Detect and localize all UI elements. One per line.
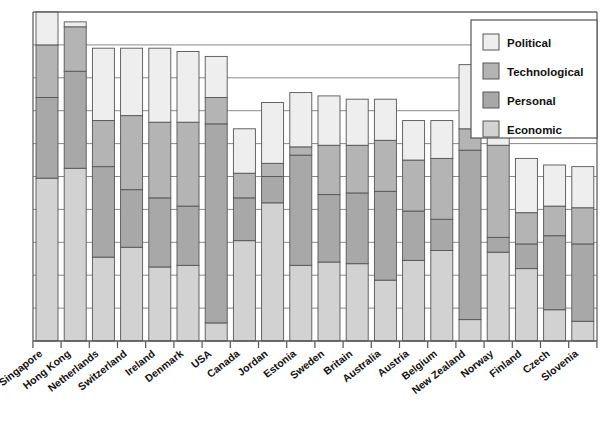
chart-canvas: SingaporeHong KongNetherlandsSwitzerland… [0,0,610,427]
bar-canada [233,129,255,341]
bar-segment-political [233,129,255,173]
legend-label-economic: Economic [507,124,563,136]
bar-segment-political [290,93,312,147]
bar-singapore [36,12,58,341]
bar-segment-personal [515,244,537,269]
legend-swatch-personal [483,92,499,108]
bar-segment-personal [205,124,227,323]
bar-segment-personal [374,191,396,280]
bar-segment-technological [177,122,199,206]
bar-segment-political [36,12,58,45]
bar-segment-personal [177,206,199,265]
chart-legend: PoliticalTechnologicalPersonalEconomic [471,20,597,138]
bar-segment-technological [403,160,425,211]
bar-segment-personal [233,198,255,241]
bar-segment-political [515,158,537,212]
bar-finland [515,158,537,341]
legend-swatch-economic [483,121,499,137]
bar-segment-economic [544,310,566,341]
bar-segment-technological [515,213,537,244]
x-axis-label-finland: Finland [487,347,524,379]
bar-segment-economic [290,265,312,341]
bar-segment-technological [318,145,340,194]
bar-segment-political [177,51,199,122]
bar-segment-technological [149,122,171,198]
bar-czech [544,165,566,341]
bar-ireland [149,48,171,341]
bar-segment-personal [290,155,312,265]
bar-segment-technological [374,140,396,191]
bar-segment-personal [36,98,58,179]
bar-britain [346,99,368,341]
bar-segment-personal [544,236,566,310]
bar-segment-political [121,48,143,115]
bar-jordan [262,102,284,341]
legend-label-technological: Technological [507,66,583,78]
bar-segment-economic [92,257,114,341]
bar-segment-economic [374,280,396,341]
bar-segment-economic [431,251,453,341]
bar-segment-technological [36,45,58,98]
bar-segment-technological [121,116,143,190]
bar-segment-personal [262,177,284,203]
bar-segment-personal [346,193,368,264]
bar-segment-political [64,22,86,27]
bar-australia [374,99,396,341]
bar-segment-economic [487,252,509,341]
bar-segment-personal [64,71,86,168]
bar-switzerland [121,48,143,341]
bar-hong-kong [64,22,86,341]
bar-segment-political [403,121,425,160]
bar-segment-political [374,99,396,140]
bar-estonia [290,93,312,341]
bar-segment-political [346,99,368,145]
bar-segment-personal [92,167,114,257]
bar-segment-economic [149,267,171,341]
bar-belgium [431,121,453,341]
bar-segment-personal [431,219,453,250]
bar-segment-economic [205,323,227,341]
bar-segment-personal [403,211,425,260]
bar-segment-economic [572,321,594,341]
bar-slovenia [572,167,594,341]
bar-segment-political [92,48,114,120]
bar-segment-technological [205,98,227,124]
bar-segment-political [149,48,171,122]
bar-sweden [318,96,340,341]
bar-segment-technological [346,145,368,193]
bar-segment-political [431,121,453,159]
stacked-bar-chart: SingaporeHong KongNetherlandsSwitzerland… [0,0,610,427]
x-axis-labels: SingaporeHong KongNetherlandsSwitzerland… [0,347,580,396]
legend-swatch-political [483,34,499,50]
bar-segment-technological [290,147,312,155]
bar-segment-technological [431,158,453,219]
bar-denmark [177,51,199,341]
bar-segment-personal [149,198,171,267]
bar-segment-economic [403,260,425,341]
bar-segment-political [572,167,594,208]
bar-segment-political [318,96,340,145]
x-axis-label-canada: Canada [204,347,241,380]
legend-label-political: Political [507,37,551,49]
bar-segment-economic [459,320,481,341]
bar-segment-political [205,56,227,97]
bar-segment-technological [92,121,114,167]
bar-segment-economic [515,269,537,341]
bar-austria [403,121,425,341]
bar-segment-economic [64,168,86,341]
bar-segment-technological [233,173,255,198]
bar-segment-economic [346,264,368,341]
bar-segment-personal [572,244,594,321]
bar-segment-economic [36,178,58,341]
bar-netherlands [92,48,114,341]
x-axis-ticks [33,341,597,348]
legend-swatch-technological [483,63,499,79]
bar-segment-technological [487,145,509,237]
bar-segment-economic [121,247,143,341]
bar-segment-economic [233,241,255,341]
bar-segment-political [262,102,284,163]
bar-segment-personal [121,190,143,248]
bar-segment-personal [487,237,509,252]
bar-segment-economic [318,262,340,341]
bar-segment-economic [262,203,284,341]
